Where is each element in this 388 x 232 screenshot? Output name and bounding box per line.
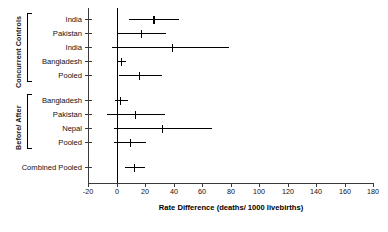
row-label-pooled-ba: Pooled (0, 139, 82, 147)
row-label-bangladesh-ba: Bangladesh (0, 97, 82, 105)
xtick-label-5: 80 (217, 188, 245, 195)
xtick-label-6: 100 (245, 188, 273, 195)
xtick-label-10: 180 (359, 188, 387, 195)
row-label-pakistan-ba: Pakistan (0, 111, 82, 119)
xtick-label-4: 60 (188, 188, 216, 195)
xtick-label-0: -20 (74, 188, 102, 195)
xtick-label-1: 0 (103, 188, 131, 195)
xtick-label-3: 40 (160, 188, 188, 195)
xtick-label-7: 120 (274, 188, 302, 195)
xtick-label-2: 20 (131, 188, 159, 195)
xtick-label-8: 140 (302, 188, 330, 195)
row-label-india-cc-2: India (0, 44, 82, 52)
row-label-bangladesh-cc: Bangladesh (0, 58, 82, 66)
x-axis-title: Rate Difference (deaths/ 1000 livebirths… (88, 203, 374, 212)
row-label-pooled-cc: Pooled (0, 72, 82, 80)
row-label-combined-pooled: Combined Pooled (0, 164, 82, 172)
row-label-india-cc-1: India (0, 16, 82, 24)
xtick-label-9: 160 (331, 188, 359, 195)
row-label-nepal-ba: Nepal (0, 125, 82, 133)
row-label-pakistan-cc: Pakistan (0, 30, 82, 38)
forest-plot: Concurrent Controls Before/ After India … (0, 0, 388, 232)
